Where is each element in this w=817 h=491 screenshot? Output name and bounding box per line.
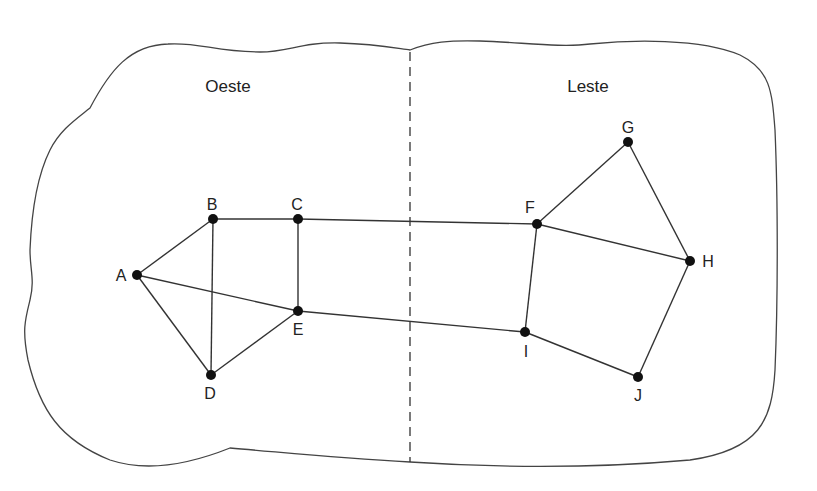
node-G (623, 137, 633, 147)
edges-group (137, 142, 690, 377)
edge-C-F (298, 219, 537, 224)
region-outline (25, 41, 778, 467)
edge-I-J (525, 332, 638, 377)
node-label-F: F (525, 199, 535, 216)
edge-E-I (298, 311, 525, 332)
region-labels: OesteLeste (205, 77, 608, 96)
node-label-A: A (116, 267, 127, 284)
node-label-E: E (293, 321, 304, 338)
node-label-G: G (622, 119, 634, 136)
edge-F-I (525, 224, 537, 332)
node-label-D: D (204, 385, 216, 402)
node-label-J: J (634, 387, 642, 404)
edge-G-H (628, 142, 690, 261)
node-D (206, 370, 216, 380)
node-label-B: B (207, 196, 218, 213)
edge-F-G (537, 142, 628, 224)
nodes-group: ABCDEFGHIJ (116, 119, 714, 404)
node-H (685, 256, 695, 266)
node-I (520, 327, 530, 337)
node-E (293, 306, 303, 316)
edge-H-J (638, 261, 690, 377)
node-label-H: H (702, 253, 714, 270)
node-J (633, 372, 643, 382)
edge-A-D (137, 275, 211, 375)
graph-diagram: ABCDEFGHIJ OesteLeste (0, 0, 817, 491)
edge-A-B (137, 219, 213, 275)
region-label-east: Leste (567, 77, 609, 96)
edge-B-D (211, 219, 213, 375)
edge-F-H (537, 224, 690, 261)
node-A (132, 270, 142, 280)
region-label-west: Oeste (205, 77, 250, 96)
node-label-I: I (524, 343, 528, 360)
node-B (208, 214, 218, 224)
node-C (293, 214, 303, 224)
edge-A-E (137, 275, 298, 311)
node-F (532, 219, 542, 229)
node-label-C: C (291, 196, 303, 213)
edge-D-E (211, 311, 298, 375)
